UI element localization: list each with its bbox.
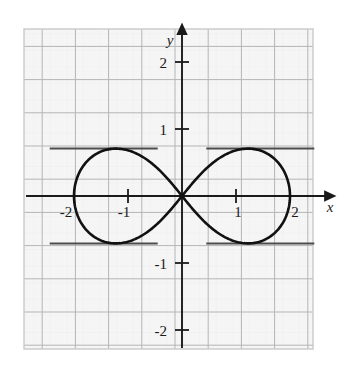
y-tick-label--2: -2 [155, 323, 168, 339]
x-tick-label-2: 2 [291, 204, 299, 220]
x-tick-label-1: 1 [234, 204, 242, 220]
y-tick-label-1: 1 [160, 122, 168, 138]
x-tick-label--2: -2 [60, 204, 73, 220]
y-tick-label--1: -1 [155, 256, 168, 272]
y-tick-label-2: 2 [160, 55, 168, 71]
minor-grid [24, 29, 313, 349]
x-axis-label: x [326, 199, 334, 215]
graph-figure: -2 -1 1 2 2 1 -1 -2 x y [0, 0, 349, 371]
lemniscate-plot-svg: -2 -1 1 2 2 1 -1 -2 x y [0, 0, 349, 371]
y-axis-label: y [165, 32, 174, 48]
x-tick-label--1: -1 [118, 204, 131, 220]
